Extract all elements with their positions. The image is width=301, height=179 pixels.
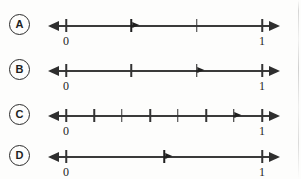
- axis-line: [58, 70, 270, 72]
- tick-one: [261, 150, 263, 163]
- option-d-numberline: 01: [48, 149, 280, 169]
- label-zero: 0: [63, 125, 69, 137]
- label-one: 1: [259, 80, 265, 92]
- tick-interior-4: [205, 109, 207, 122]
- option-c-value-marker[interactable]: [233, 109, 235, 122]
- option-b-numberline: 01: [48, 63, 280, 83]
- axis-arrow-left-icon: [48, 152, 59, 162]
- option-b-value-marker[interactable]: [196, 64, 198, 77]
- option-c-numberline: 01: [48, 108, 280, 128]
- axis-arrow-right-icon: [269, 152, 280, 162]
- option-letter-a[interactable]: A: [9, 14, 30, 35]
- axis-arrow-left-icon: [48, 21, 59, 31]
- option-letter-d[interactable]: D: [9, 145, 30, 166]
- tick-interior-3: [177, 109, 179, 122]
- tick-one: [261, 64, 263, 77]
- tick-interior-0: [131, 64, 133, 77]
- option-c-row[interactable]: C01: [0, 96, 301, 140]
- option-a-value-marker[interactable]: [131, 19, 133, 32]
- tick-interior-0: [196, 19, 198, 32]
- label-zero: 0: [63, 80, 69, 92]
- tick-zero: [65, 109, 67, 122]
- diagram-sheet: A01B01C01D01: [0, 0, 301, 179]
- axis-arrow-right-icon: [269, 21, 280, 31]
- option-d-value-marker[interactable]: [163, 150, 165, 163]
- option-letter-c[interactable]: C: [9, 104, 30, 125]
- tick-one: [261, 109, 263, 122]
- axis-arrow-right-icon: [269, 66, 280, 76]
- axis-arrow-right-icon: [269, 111, 280, 121]
- axis-line: [58, 25, 270, 27]
- option-letter-b[interactable]: B: [9, 59, 30, 80]
- tick-one: [261, 19, 263, 32]
- label-one: 1: [259, 35, 265, 47]
- tick-zero: [65, 19, 67, 32]
- tick-zero: [65, 64, 67, 77]
- label-one: 1: [259, 125, 265, 137]
- label-zero: 0: [63, 35, 69, 47]
- option-d-row[interactable]: D01: [0, 137, 301, 179]
- label-one: 1: [259, 166, 265, 178]
- option-a-row[interactable]: A01: [0, 6, 301, 50]
- tick-interior-1: [121, 109, 123, 122]
- axis-arrow-left-icon: [48, 66, 59, 76]
- label-zero: 0: [63, 166, 69, 178]
- tick-zero: [65, 150, 67, 163]
- tick-interior-2: [149, 109, 151, 122]
- option-a-numberline: 01: [48, 18, 280, 38]
- tick-interior-0: [93, 109, 95, 122]
- axis-arrow-left-icon: [48, 111, 59, 121]
- option-b-row[interactable]: B01: [0, 51, 301, 95]
